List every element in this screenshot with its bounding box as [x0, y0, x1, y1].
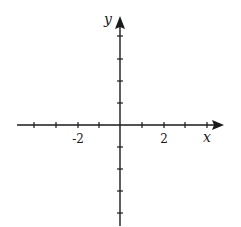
- x-axis-label: x: [203, 129, 211, 145]
- tick-label-pos2: 2: [160, 132, 168, 146]
- y-axis-label: y: [103, 11, 113, 27]
- coordinate-plane: -2 2 x y: [0, 0, 241, 227]
- tick-label-neg2: -2: [72, 132, 84, 146]
